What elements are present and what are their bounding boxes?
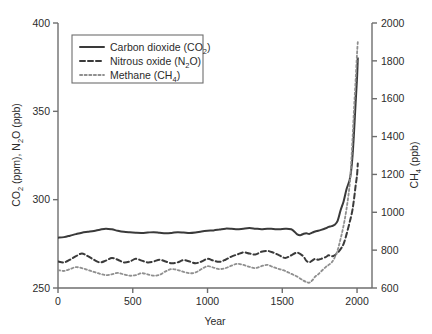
greenhouse-gas-line-chart: 250300350400 600800100012001400160018002…	[0, 0, 432, 334]
legend-label-tail: )	[177, 69, 181, 81]
chart-figure: 250300350400 600800100012001400160018002…	[0, 0, 432, 334]
x-tick-label: 500	[124, 295, 142, 307]
x-tick-label: 1500	[271, 295, 295, 307]
right-tick-label: 1400	[381, 130, 405, 142]
x-axis-title: Year	[204, 315, 226, 327]
right-tick-label: 600	[381, 282, 399, 294]
legend-label-main: Methane (CH	[110, 69, 172, 81]
legend-label-tail: O)	[189, 55, 201, 67]
legend-label-main: Carbon dioxide (CO	[110, 41, 203, 53]
right-tick-label: 1800	[381, 55, 405, 67]
right-tick-label: 2000	[381, 17, 405, 29]
right-axis-title-ch4: CH	[408, 173, 420, 188]
left-tick-label: 250	[32, 282, 50, 294]
right-tick-label: 1600	[381, 92, 405, 104]
left-axis-title-tail: O (ppb)	[10, 103, 22, 139]
legend-label-tail: )	[207, 41, 211, 53]
right-tick-label: 1200	[381, 168, 405, 180]
right-tick-label: 800	[381, 244, 399, 256]
chart-background	[0, 0, 432, 334]
left-tick-label: 350	[32, 105, 50, 117]
x-tick-label: 0	[55, 295, 61, 307]
x-tick-label: 1000	[196, 295, 220, 307]
right-axis-title-tail: (ppb)	[408, 142, 420, 169]
x-tick-label: 2000	[345, 295, 369, 307]
right-tick-label: 1000	[381, 206, 405, 218]
left-axis-title-mid: (ppm), N	[10, 143, 22, 187]
left-tick-label: 400	[32, 17, 50, 29]
legend-label-main: Nitrous oxide (N	[110, 55, 185, 67]
chart-legend: Carbon dioxide (CO2)Nitrous oxide (N2O)M…	[72, 35, 210, 84]
left-tick-label: 300	[32, 193, 50, 205]
left-axis-title-co2: CO	[10, 191, 22, 207]
